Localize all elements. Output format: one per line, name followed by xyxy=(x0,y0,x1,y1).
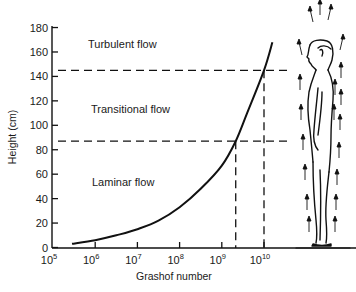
y-tick-label: 20 xyxy=(36,217,48,229)
y-tick-label: 60 xyxy=(36,168,48,180)
height-grashof-curve xyxy=(72,42,272,244)
arrowhead-icon xyxy=(339,89,343,94)
y-tick-label: 120 xyxy=(30,95,48,107)
x-tick-label: 106 xyxy=(83,252,99,266)
arrowhead-icon xyxy=(308,6,312,11)
y-tick-label: 160 xyxy=(30,46,48,58)
arrowhead-icon xyxy=(334,194,338,199)
arrowhead-icon xyxy=(298,74,302,79)
y-tick-label: 80 xyxy=(36,144,48,156)
x-tick-label: 107 xyxy=(125,252,141,266)
arrowhead-icon xyxy=(337,142,341,147)
arrowhead-icon xyxy=(307,216,311,221)
reference-lines xyxy=(58,70,292,248)
arrowhead-icon xyxy=(301,134,305,139)
arrowhead-icon xyxy=(339,62,343,67)
y-axis-title: Height (cm) xyxy=(6,110,18,164)
x-tick-label: 1010 xyxy=(250,252,271,266)
arrowhead-icon xyxy=(341,34,345,39)
arrowhead-icon xyxy=(303,164,307,169)
y-tick-label: 180 xyxy=(30,22,48,34)
x-tick-label: 109 xyxy=(210,252,226,266)
human-figure-icon xyxy=(296,40,350,248)
y-tick-label: 40 xyxy=(36,193,48,205)
y-tick-label: 0 xyxy=(42,242,48,254)
arrowhead-icon xyxy=(329,4,333,9)
arrowhead-icon xyxy=(299,104,303,109)
grashof-height-chart: 020406080100120140160180 105106107108109… xyxy=(0,0,356,292)
transitional-flow-label: Transitional flow xyxy=(91,103,170,115)
y-tick-label: 100 xyxy=(30,119,48,131)
arrowhead-icon xyxy=(297,39,301,44)
laminar-flow-label: Laminar flow xyxy=(92,176,154,188)
x-tick-label: 108 xyxy=(167,252,183,266)
y-axis-ticks: 020406080100120140160180 xyxy=(30,22,58,254)
x-tick-label: 105 xyxy=(41,252,57,266)
arrowhead-icon xyxy=(333,79,337,84)
arrowhead-icon xyxy=(338,114,342,119)
arrowhead-icon xyxy=(318,0,322,4)
arrowhead-icon xyxy=(333,216,337,221)
x-axis-title: Grashof number xyxy=(136,270,212,282)
turbulent-flow-label: Turbulent flow xyxy=(88,38,157,50)
y-tick-label: 140 xyxy=(30,70,48,82)
arrowhead-icon xyxy=(335,169,339,174)
arrowhead-icon xyxy=(305,194,309,199)
